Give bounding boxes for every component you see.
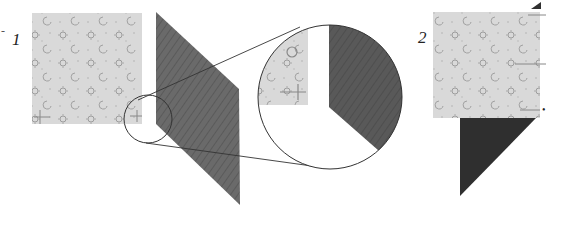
- dark-triangle: [460, 118, 536, 196]
- light-print-square-1: [32, 13, 142, 124]
- dark-triangle-corner: [531, 2, 541, 9]
- light-print-square-2: [433, 12, 540, 118]
- diagram-canvas: [0, 0, 575, 225]
- magnified-detail: [258, 25, 402, 169]
- dark-parallelogram: [156, 12, 240, 205]
